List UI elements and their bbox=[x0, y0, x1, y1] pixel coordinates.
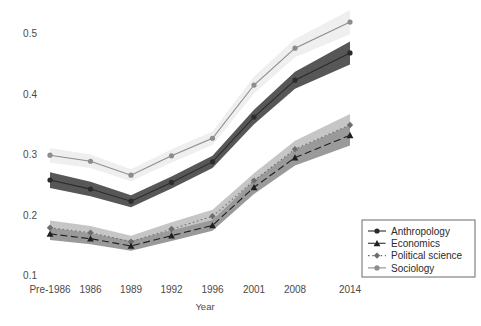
x-tick-label: 1989 bbox=[120, 284, 143, 295]
legend-label: Anthropology bbox=[391, 226, 450, 237]
chart-svg: 0.10.20.30.40.5 Pre-19861986198919921996… bbox=[0, 0, 481, 326]
x-tick-label: 1986 bbox=[79, 284, 102, 295]
y-axis-tick-labels: 0.10.20.30.40.5 bbox=[23, 28, 37, 281]
x-tick-label: 1992 bbox=[160, 284, 183, 295]
x-tick-label: 2001 bbox=[243, 284, 266, 295]
y-tick-label: 0.1 bbox=[23, 270, 37, 281]
data-point-marker-circle bbox=[210, 159, 215, 164]
data-point-marker-circle bbox=[251, 82, 256, 87]
data-point-marker-circle bbox=[210, 136, 215, 141]
legend-label: Political science bbox=[391, 250, 463, 261]
y-tick-label: 0.3 bbox=[23, 149, 37, 160]
line-chart-figure: 0.10.20.30.40.5 Pre-19861986198919921996… bbox=[0, 0, 481, 326]
x-tick-label: Pre-1986 bbox=[29, 284, 71, 295]
data-point-marker-circle bbox=[374, 228, 379, 233]
band-layer bbox=[50, 10, 350, 251]
data-point-marker-circle bbox=[88, 186, 93, 191]
data-point-marker-circle bbox=[47, 153, 52, 158]
y-tick-label: 0.2 bbox=[23, 210, 37, 221]
x-tick-label: 2014 bbox=[339, 284, 362, 295]
data-point-marker-circle bbox=[347, 50, 352, 55]
data-point-marker-circle bbox=[347, 20, 352, 25]
data-point-marker-circle bbox=[292, 78, 297, 83]
data-point-marker-circle bbox=[128, 199, 133, 204]
legend-label: Economics bbox=[391, 238, 440, 249]
legend[interactable]: AnthropologyEconomicsPolitical scienceSo… bbox=[362, 220, 475, 277]
data-point-marker-circle bbox=[292, 46, 297, 51]
y-tick-label: 0.5 bbox=[23, 28, 37, 39]
x-tick-label: 2008 bbox=[284, 284, 307, 295]
y-tick-label: 0.4 bbox=[23, 89, 37, 100]
confidence-band-anthropology bbox=[50, 41, 350, 207]
data-point-marker-circle bbox=[128, 173, 133, 178]
data-point-marker-circle bbox=[88, 159, 93, 164]
data-point-marker-circle bbox=[374, 265, 379, 270]
data-point-marker-circle bbox=[169, 180, 174, 185]
series-line bbox=[50, 53, 350, 201]
x-tick-label: 1996 bbox=[201, 284, 224, 295]
data-point-marker-circle bbox=[169, 153, 174, 158]
data-point-marker-circle bbox=[251, 114, 256, 119]
data-point-marker-circle bbox=[47, 177, 52, 182]
legend-label: Sociology bbox=[391, 263, 434, 274]
x-axis-tick-labels: Pre-19861986198919921996200120082014 bbox=[29, 284, 361, 295]
x-axis-title: Year bbox=[195, 301, 214, 312]
